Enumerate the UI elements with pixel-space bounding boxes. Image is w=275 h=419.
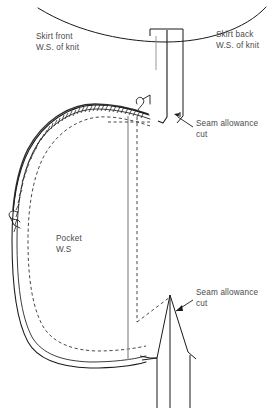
back-strip-fold-line	[158, 30, 167, 123]
label-skirt-front-line1: Skirt front	[36, 32, 79, 43]
label-seam-allowance-bottom: Seam allowance cut	[196, 288, 258, 309]
pocket-serged-stitching	[14, 105, 144, 232]
label-pocket: Pocket W.S	[56, 234, 82, 255]
label-skirt-front: Skirt front W.S. of knit	[36, 32, 79, 53]
label-seam-allowance-top: Seam allowance cut	[196, 119, 258, 140]
label-seam-allowance-top-line2: cut	[196, 130, 258, 141]
label-pocket-line1: Pocket	[56, 234, 82, 245]
label-skirt-front-line2: W.S. of knit	[36, 43, 79, 54]
pocket-stitch-line	[28, 117, 150, 351]
label-skirt-back: Skirt back W.S. of knit	[216, 30, 259, 51]
thread-tail-upper-icon	[136, 95, 150, 110]
notch-peak-outline	[142, 295, 196, 360]
label-skirt-back-line2: W.S. of knit	[216, 41, 259, 52]
back-strip-right-edge	[177, 29, 183, 123]
leader-line-bottom	[176, 300, 193, 311]
pattern-illustration-figure: Skirt front W.S. of knit Skirt back W.S.…	[0, 0, 275, 419]
back-strip	[150, 29, 183, 123]
pocket-bottom-join	[140, 356, 157, 358]
notch-peak	[142, 295, 196, 408]
label-seam-allowance-bottom-line2: cut	[196, 299, 258, 310]
pattern-drawing-canvas	[0, 0, 275, 419]
label-skirt-back-line1: Skirt back	[216, 30, 259, 41]
label-pocket-line2: W.S	[56, 245, 82, 256]
label-seam-allowance-bottom-line1: Seam allowance	[196, 288, 258, 299]
label-seam-allowance-top-line1: Seam allowance	[196, 119, 258, 130]
